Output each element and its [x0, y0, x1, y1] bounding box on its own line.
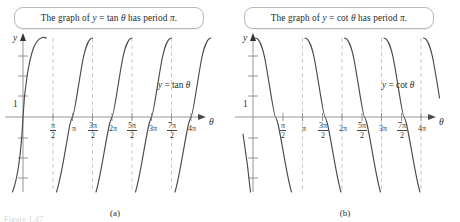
x-tick-label-pi-over-2-a: π2 — [50, 122, 56, 140]
panel-cotangent: The graph of y = cot θ has period π. — [230, 0, 460, 222]
tangent-plot — [0, 32, 230, 197]
x-tick-label-2pi-a: 2π — [109, 125, 117, 133]
x-tick-label-pi-a: π — [72, 125, 76, 133]
y-axis-cotangent — [250, 33, 256, 192]
panel-tangent: The graph of y = tan θ has period π. — [0, 0, 230, 222]
curve-label-cotangent: y = cot θ — [382, 80, 414, 90]
x-tick-label-2pi-b: 2π — [339, 125, 347, 133]
x-tick-label-7pi-over-2-b: 7π2 — [397, 122, 407, 140]
caption-text-cotangent: The graph of y = cot θ has period π. — [271, 13, 407, 23]
caption-box-cotangent: The graph of y = cot θ has period π. — [244, 7, 434, 29]
x-tick-label-3pi-over-2-a: 3π2 — [88, 122, 98, 140]
x-axis-cotangent — [235, 114, 436, 120]
y-tick-label-one-cotangent: 1 — [243, 99, 248, 109]
x-tick-label-pi-over-2-b: π2 — [280, 122, 286, 140]
x-tick-label-3pi-a: 3π — [149, 125, 157, 133]
caption-text-tangent: The graph of y = tan θ has period π. — [41, 13, 177, 23]
x-axis-label-tangent: θ — [209, 117, 214, 127]
cotangent-plot — [230, 32, 460, 197]
x-tick-label-pi-b: π — [302, 125, 306, 133]
x-tick-label-5pi-over-2-a: 5π2 — [127, 122, 137, 140]
subfigure-label-b: (b) — [230, 208, 460, 218]
trig-graphs-figure: The graph of y = tan θ has period π. — [0, 0, 460, 222]
cotangent-curves — [243, 38, 440, 192]
curve-label-tangent: y = tan θ — [158, 80, 190, 90]
y-axis-label-tangent: y — [13, 33, 17, 43]
x-tick-label-4pi-a: 4π — [188, 125, 196, 133]
x-tick-label-3pi-over-2-b: 3π2 — [318, 122, 328, 140]
x-tick-label-7pi-over-2-a: 7π2 — [167, 122, 177, 140]
x-tick-label-3pi-b: 3π — [379, 125, 387, 133]
x-tick-label-5pi-over-2-b: 5π2 — [357, 122, 367, 140]
figure-caption: Figure 1.47 — [4, 214, 43, 222]
x-axis-label-cotangent: θ — [439, 117, 444, 127]
caption-box-tangent: The graph of y = tan θ has period π. — [14, 7, 204, 29]
y-axis-label-cotangent: y — [243, 33, 247, 43]
x-axis-tangent — [5, 114, 206, 120]
x-tick-label-4pi-b: 4π — [418, 125, 426, 133]
y-tick-label-one-tangent: 1 — [13, 99, 18, 109]
